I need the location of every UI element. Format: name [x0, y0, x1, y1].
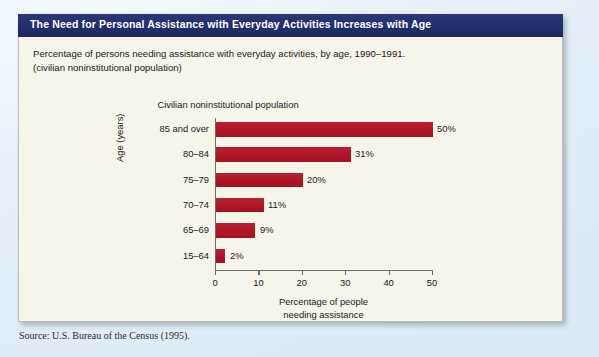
- bar-70-74: [216, 198, 264, 213]
- bar-row: 85 and over 50%: [215, 118, 432, 143]
- bar-value-label: 11%: [268, 198, 286, 213]
- bar-value-label: 9%: [260, 223, 274, 238]
- x-axis-tick-label: 20: [297, 277, 307, 288]
- x-axis-tick-label: 10: [253, 277, 263, 288]
- chart-title: Civilian noninstitutional population: [18, 99, 438, 110]
- x-axis-tick: [345, 270, 346, 275]
- bar-row: 75–79 20%: [215, 169, 432, 194]
- category-label: 15–64: [183, 249, 209, 264]
- x-axis-line: [215, 270, 432, 271]
- bar-value-label: 20%: [307, 173, 326, 188]
- x-axis-tick-label: 0: [212, 277, 217, 288]
- bar-chart: Civilian noninstitutional population Age…: [18, 14, 563, 322]
- category-label: 70–74: [183, 198, 209, 213]
- category-label: 65–69: [183, 223, 209, 238]
- bar-value-label: 2%: [230, 249, 244, 264]
- category-label: 80–84: [183, 147, 209, 162]
- x-axis-tick: [432, 270, 433, 275]
- x-axis-tick: [389, 270, 390, 275]
- source-note: Source: U.S. Bureau of the Census (1995)…: [19, 330, 190, 341]
- bar-75-79: [216, 173, 303, 188]
- bar-row: 80–84 31%: [215, 143, 432, 168]
- x-axis-tick-label: 40: [383, 277, 393, 288]
- x-axis-tick-label: 30: [340, 277, 350, 288]
- x-axis-tick: [215, 270, 216, 275]
- category-label: 75–79: [183, 173, 209, 188]
- x-axis-label-line-1: Percentage of people: [215, 296, 432, 309]
- category-label: 85 and over: [159, 122, 209, 137]
- x-axis-label: Percentage of people needing assistance: [215, 296, 432, 321]
- bar-value-label: 31%: [355, 147, 374, 162]
- bar-15-64: [216, 249, 225, 264]
- y-axis-label: Age (years): [114, 114, 125, 162]
- figure-card: The Need for Personal Assistance with Ev…: [18, 14, 563, 322]
- x-axis-tick: [258, 270, 259, 275]
- x-axis-tick-label: 50: [427, 277, 437, 288]
- plot-area: 85 and over 50% 80–84 31% 75–79 20% 70–7…: [215, 118, 432, 270]
- bar-row: 15–64 2%: [215, 245, 432, 270]
- bar-80-84: [216, 147, 351, 162]
- bar-row: 70–74 11%: [215, 194, 432, 219]
- bar-value-label: 50%: [437, 122, 456, 137]
- bar-85-and-over: [216, 122, 433, 137]
- bar-row: 65–69 9%: [215, 219, 432, 244]
- x-axis-tick: [302, 270, 303, 275]
- x-axis-label-line-2: needing assistance: [215, 309, 432, 322]
- bar-65-69: [216, 223, 255, 238]
